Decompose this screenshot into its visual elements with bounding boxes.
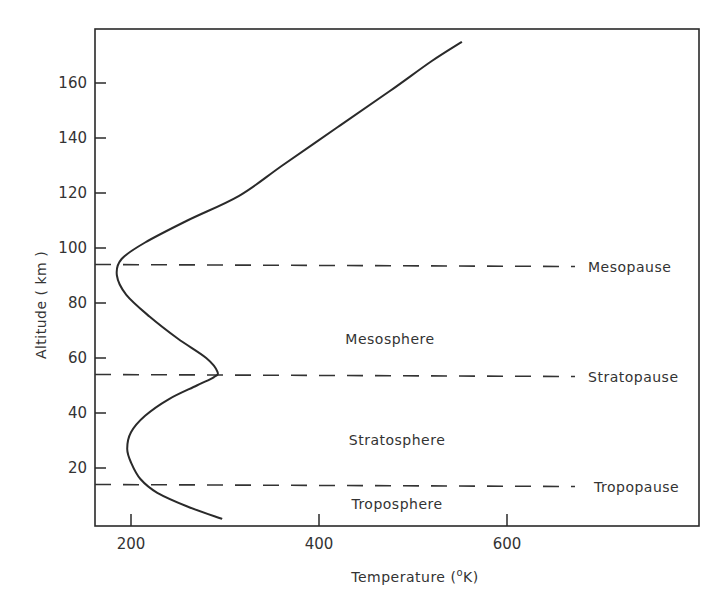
x-tick-label: 200 <box>117 535 146 553</box>
y-tick-label: 140 <box>58 129 87 147</box>
y-tick-label: 160 <box>58 74 87 92</box>
x-axis-title: Temperature (oK) <box>350 567 478 585</box>
x-tick-label: 600 <box>493 535 522 553</box>
plot-border <box>95 29 699 526</box>
boundary-line-stratopause <box>95 375 575 377</box>
region-label-stratosphere: Stratosphere <box>349 432 446 448</box>
region-label-troposphere: Troposphere <box>350 496 442 512</box>
y-tick-label: 20 <box>68 459 87 477</box>
boundary-line-mesopause <box>95 265 575 267</box>
temperature-altitude-chart: 20406080100120140160 200400600 Mesopause… <box>0 0 728 609</box>
boundary-label-mesopause: Mesopause <box>588 259 671 275</box>
y-tick-label: 40 <box>68 404 87 422</box>
y-axis: 20406080100120140160 <box>58 74 106 477</box>
y-tick-label: 120 <box>58 184 87 202</box>
boundary-label-tropopause: Tropopause <box>593 479 679 495</box>
boundary-line-tropopause <box>95 485 575 487</box>
x-axis: 200400600 <box>117 514 522 553</box>
y-tick-label: 100 <box>58 239 87 257</box>
plot-frame <box>95 29 699 526</box>
x-tick-label: 400 <box>305 535 334 553</box>
y-tick-label: 80 <box>68 294 87 312</box>
y-axis-title: Altitude ( km ) <box>33 251 49 359</box>
y-tick-label: 60 <box>68 349 87 367</box>
boundary-label-stratopause: Stratopause <box>588 369 679 385</box>
boundary-lines: MesopauseStratopauseTropopause <box>95 259 679 495</box>
region-label-mesosphere: Mesosphere <box>345 331 434 347</box>
